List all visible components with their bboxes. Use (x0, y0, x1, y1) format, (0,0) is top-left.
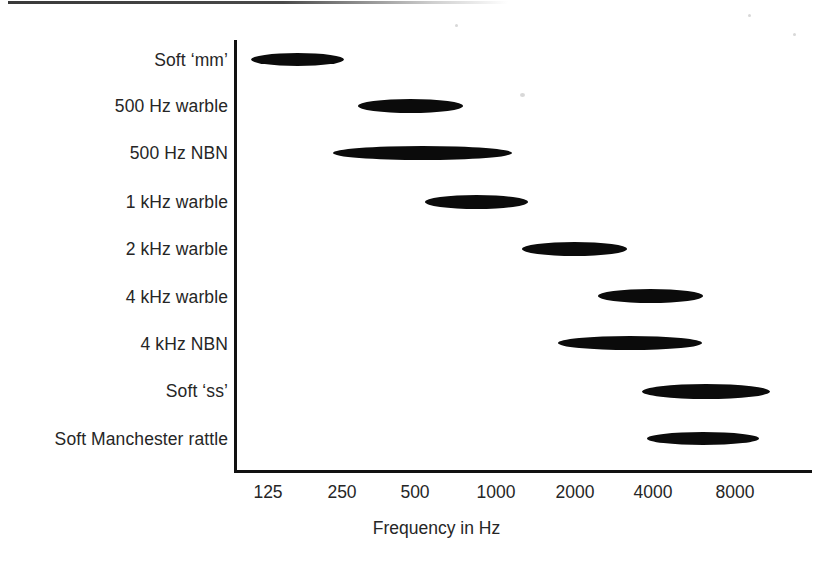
range-marker-1khz-warble (425, 195, 528, 209)
scan-speck (793, 33, 796, 36)
scan-speck (520, 93, 525, 97)
x-tick-250: 250 (327, 482, 356, 502)
x-axis-line (234, 470, 812, 473)
range-marker-4khz-warble (598, 289, 703, 303)
frequency-range-chart: Soft ‘mm’ 500 Hz warble 500 Hz NBN 1 kHz… (0, 0, 833, 567)
category-label-1khz-warble: 1 kHz warble (126, 193, 228, 211)
y-axis-line (234, 40, 237, 473)
x-tick-1000: 1000 (477, 482, 516, 502)
range-marker-500hz-nbn (333, 146, 512, 160)
scan-speck (748, 14, 751, 17)
range-marker-soft-mm (251, 53, 344, 66)
range-marker-soft-ss (642, 384, 770, 399)
x-tick-500: 500 (400, 482, 429, 502)
x-axis-title: Frequency in Hz (373, 518, 500, 538)
range-marker-manchester-rattle (647, 432, 759, 445)
range-marker-2khz-warble (522, 242, 627, 256)
range-marker-500hz-warble (358, 99, 463, 113)
category-label-soft-ss: Soft ‘ss’ (166, 382, 228, 400)
category-label-500hz-nbn: 500 Hz NBN (130, 144, 228, 162)
category-label-500hz-warble: 500 Hz warble (115, 97, 228, 115)
range-marker-4khz-nbn (558, 336, 702, 350)
category-label-4khz-warble: 4 kHz warble (126, 288, 228, 306)
category-label-4khz-nbn: 4 kHz NBN (141, 335, 228, 353)
x-axis-title-wrapper: Frequency in Hz (0, 518, 833, 538)
x-tick-8000: 8000 (716, 482, 755, 502)
category-label-manchester-rattle: Soft Manchester rattle (55, 430, 228, 448)
x-tick-125: 125 (253, 482, 282, 502)
category-label-soft-mm: Soft ‘mm’ (154, 51, 228, 69)
plot-area: Soft ‘mm’ 500 Hz warble 500 Hz NBN 1 kHz… (0, 0, 833, 567)
x-tick-2000: 2000 (556, 482, 595, 502)
category-label-2khz-warble: 2 kHz warble (126, 240, 228, 258)
x-tick-4000: 4000 (634, 482, 673, 502)
scan-speck (455, 24, 458, 27)
